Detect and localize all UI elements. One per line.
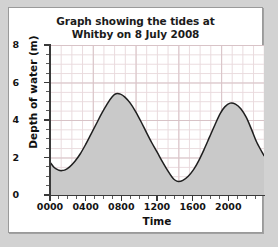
x-minor-tick xyxy=(255,196,256,199)
y-tick-4 xyxy=(44,119,49,120)
chart-title-line-1: Graph showing the tides at xyxy=(9,15,262,28)
x-minor-tick xyxy=(112,196,113,199)
y-tick-2 xyxy=(44,157,49,158)
y-tick-6 xyxy=(44,82,49,83)
x-minor-tick xyxy=(76,196,77,199)
y-minor-tick xyxy=(46,148,49,149)
x-minor-tick xyxy=(94,196,95,199)
x-tick-label-0000: 0000 xyxy=(30,201,70,212)
tide-area-fill xyxy=(50,94,264,195)
y-tick-label-0: 0 xyxy=(0,189,19,200)
x-minor-tick xyxy=(58,196,59,199)
x-tick-0000 xyxy=(49,196,50,201)
y-tick-label-6: 6 xyxy=(0,77,19,88)
x-minor-tick xyxy=(210,196,211,199)
x-minor-tick xyxy=(201,196,202,199)
x-minor-tick xyxy=(103,196,104,199)
x-tick-label-0400: 0400 xyxy=(66,201,106,212)
x-minor-tick xyxy=(165,196,166,199)
x-tick-2000 xyxy=(228,196,229,201)
x-axis-title: Time xyxy=(50,215,264,227)
y-tick-8 xyxy=(44,44,49,45)
x-minor-tick xyxy=(219,196,220,199)
x-tick-1200 xyxy=(156,196,157,201)
y-minor-tick xyxy=(46,54,49,55)
y-minor-tick xyxy=(46,166,49,167)
plot-area xyxy=(50,45,264,195)
y-tick-label-2: 2 xyxy=(0,152,19,163)
y-minor-tick xyxy=(46,110,49,111)
y-tick-label-4: 4 xyxy=(0,114,19,125)
plot-wrapper xyxy=(50,45,264,195)
y-axis-title: Depth of water (m) xyxy=(27,22,39,162)
y-tick-label-8: 8 xyxy=(0,39,19,50)
y-minor-tick xyxy=(46,176,49,177)
x-tick-label-0800: 0800 xyxy=(101,201,141,212)
x-tick-label-2000: 2000 xyxy=(208,201,248,212)
y-minor-tick xyxy=(46,129,49,130)
x-tick-label-1200: 1200 xyxy=(137,201,177,212)
figure-card: Graph showing the tides at Whitby on 8 J… xyxy=(8,7,263,233)
chart-title-line-2: Whitby on 8 July 2008 xyxy=(9,28,262,41)
y-minor-tick xyxy=(46,185,49,186)
y-minor-tick xyxy=(46,138,49,139)
y-minor-tick xyxy=(46,63,49,64)
x-minor-tick xyxy=(139,196,140,199)
x-minor-tick xyxy=(148,196,149,199)
x-tick-label-1600: 1600 xyxy=(173,201,213,212)
x-minor-tick xyxy=(67,196,68,199)
x-minor-tick xyxy=(130,196,131,199)
x-tick-0400 xyxy=(85,196,86,201)
x-tick-1600 xyxy=(192,196,193,201)
x-minor-tick xyxy=(237,196,238,199)
y-minor-tick xyxy=(46,101,49,102)
x-minor-tick xyxy=(183,196,184,199)
chart-title: Graph showing the tides at Whitby on 8 J… xyxy=(9,15,262,40)
y-minor-tick xyxy=(46,73,49,74)
x-minor-tick xyxy=(246,196,247,199)
x-minor-tick xyxy=(174,196,175,199)
x-tick-0800 xyxy=(121,196,122,201)
y-axis-line xyxy=(49,44,51,196)
tide-curve xyxy=(50,45,264,195)
y-minor-tick xyxy=(46,91,49,92)
y-tick-0 xyxy=(44,194,49,195)
